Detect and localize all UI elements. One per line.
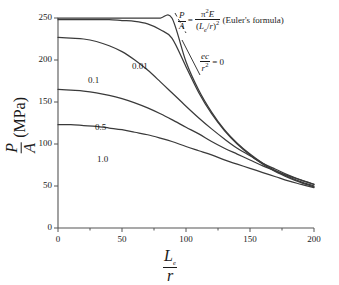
y-axis-title-denominator: A [22, 142, 39, 154]
y-axis-title: P A (MPa) [4, 92, 39, 158]
x-axis-title: Le r [155, 248, 185, 285]
curve-0-5 [58, 89, 314, 184]
y-tick-label: 50 [20, 181, 52, 190]
x-axis-title-fraction: Le r [163, 248, 177, 285]
y-axis-title-numerator: P [4, 142, 22, 154]
y-tick-label: 250 [20, 13, 52, 22]
x-tick-label: 50 [106, 235, 138, 244]
x-axis-ticks [58, 228, 314, 232]
y-tick-label: 200 [20, 55, 52, 64]
x-axis-title-numerator: Le [163, 248, 177, 268]
curve-value-label: 0.5 [95, 123, 106, 132]
axes-group [54, 18, 314, 232]
curve-value-label: 0.01 [132, 62, 148, 71]
x-tick-label: 150 [234, 235, 266, 244]
euler-lhs-fraction: P A [178, 11, 186, 31]
curve-value-label: 0.1 [88, 76, 99, 85]
eccentricity-ratio-annotation: ec r2 = 0 [200, 52, 224, 74]
x-tick-label: 200 [298, 235, 330, 244]
y-axis-title-fraction: P A [4, 142, 39, 154]
curve-value-label: 1.0 [97, 155, 108, 164]
x-axis-title-denominator: r [163, 268, 177, 285]
y-axis-ticks [54, 18, 58, 228]
x-tick-label: 100 [170, 235, 202, 244]
euler-rhs-fraction: π2E (Le/r)2 [195, 8, 220, 34]
ecr-denominator: r2 [200, 62, 210, 73]
euler-equals: = [188, 15, 193, 25]
ecr-value: = 0 [212, 57, 224, 67]
y-axis-title-units: (MPa) [11, 97, 28, 138]
euler-lhs-numerator: P [178, 11, 186, 21]
euler-formula-annotation: P A = π2E (Le/r)2 (Euler's formula) [178, 8, 284, 34]
euler-lhs-denominator: A [178, 22, 186, 31]
x-tick-label: 0 [42, 235, 74, 244]
y-tick-label: 0 [20, 223, 52, 232]
euler-caption: (Euler's formula) [223, 15, 284, 25]
euler-rhs-denominator: (Le/r)2 [195, 20, 220, 34]
ecr-fraction: ec r2 [200, 52, 210, 74]
